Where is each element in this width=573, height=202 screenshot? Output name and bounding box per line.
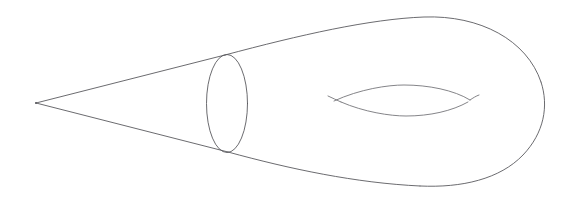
figure-canvas — [0, 0, 573, 202]
cone-apex-point — [35, 102, 37, 104]
figure-background — [0, 0, 573, 202]
line-drawing-svg — [0, 0, 573, 202]
